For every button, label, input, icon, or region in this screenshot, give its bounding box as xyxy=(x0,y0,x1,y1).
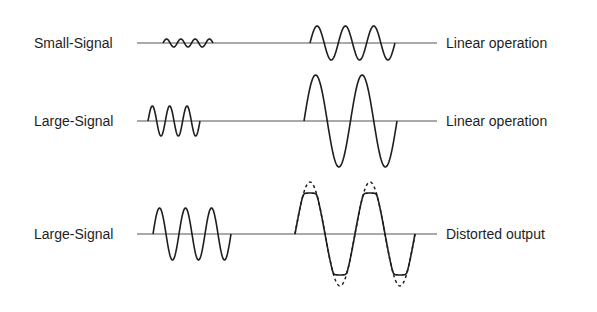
signal-diagram xyxy=(0,0,597,312)
waveforms xyxy=(148,26,415,286)
baselines xyxy=(137,43,437,234)
